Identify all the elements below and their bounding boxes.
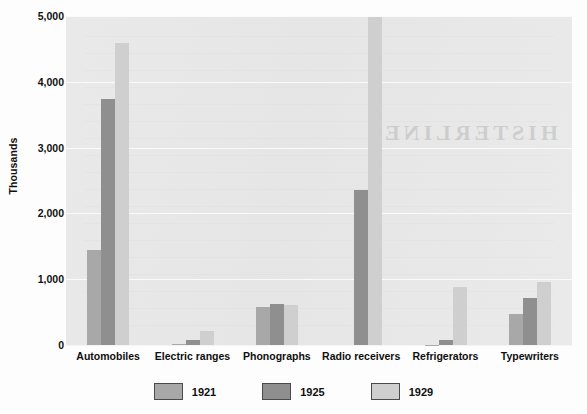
- watermark-text: HISTERLINE: [381, 120, 558, 146]
- x-axis-category-label: Electric ranges: [155, 350, 230, 362]
- legend-item[interactable]: 1929: [371, 383, 433, 400]
- legend-label: 1929: [409, 386, 433, 398]
- x-axis-category-label: Phonographs: [243, 350, 311, 362]
- gridline: [66, 148, 572, 149]
- bar: [101, 99, 115, 345]
- gridline: [66, 345, 572, 346]
- legend-swatch-icon: [154, 383, 183, 400]
- legend-swatch-icon: [262, 383, 291, 400]
- bar: [537, 282, 551, 345]
- y-axis-tick-label: 5,000: [4, 10, 64, 22]
- x-axis-category-label: Refrigerators: [413, 350, 479, 362]
- bar: [354, 190, 368, 345]
- x-axis-category-label: Typewriters: [501, 350, 559, 362]
- x-axis-category-label: Automobiles: [76, 350, 140, 362]
- y-axis-tick-label: 1,000: [4, 273, 64, 285]
- bar: [284, 305, 298, 345]
- bar-chart: Thousands 01,0002,0003,0004,0005,000 HIS…: [0, 0, 587, 414]
- bar: [270, 304, 284, 345]
- bar: [172, 344, 186, 345]
- bar: [453, 287, 467, 345]
- gridline: [66, 82, 572, 83]
- bar: [186, 340, 200, 345]
- bar: [115, 43, 129, 345]
- bar: [523, 298, 537, 345]
- gridline: [66, 213, 572, 214]
- legend-item[interactable]: 1921: [154, 383, 216, 400]
- watermark-texture: [84, 36, 554, 326]
- y-axis-tick-label: 3,000: [4, 142, 64, 154]
- bar: [439, 340, 453, 345]
- plot-area: HISTERLINE: [66, 16, 572, 345]
- bar: [200, 331, 214, 345]
- chart-legend: 192119251929: [0, 383, 587, 400]
- gridline: [66, 279, 572, 280]
- bar: [87, 250, 101, 345]
- legend-swatch-icon: [371, 383, 400, 400]
- legend-label: 1921: [192, 386, 216, 398]
- legend-item[interactable]: 1925: [262, 383, 324, 400]
- bar: [256, 307, 270, 345]
- y-axis-tick-label: 2,000: [4, 207, 64, 219]
- y-axis-tick-label: 0: [4, 339, 64, 351]
- bar: [509, 314, 523, 345]
- gridline: [66, 16, 572, 17]
- x-axis-category-label: Radio receivers: [322, 350, 400, 362]
- plot-background-tint: [66, 16, 572, 345]
- y-axis-tick-label: 4,000: [4, 76, 64, 88]
- legend-label: 1925: [300, 386, 324, 398]
- bar: [368, 17, 382, 345]
